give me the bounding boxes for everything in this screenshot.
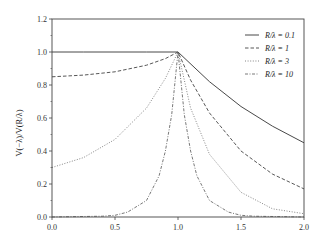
x-tick-label: 0.0 (47, 223, 57, 232)
legend-label-2: R/λ = 1 (264, 44, 289, 53)
x-tick-label: 1.5 (236, 223, 246, 232)
legend: R/λ = 0.1R/λ = 1R/λ = 3R/λ = 10 (245, 31, 295, 79)
chart: 0.00.20.40.60.81.01.20.00.51.01.52.0 R/λ… (0, 0, 325, 245)
x-tick-label: 2.0 (299, 223, 309, 232)
y-tick-label: 0.6 (37, 114, 47, 123)
y-tick-label: 0.8 (37, 81, 47, 90)
y-axis-label: V(−λ)/V(R/λ) (14, 109, 24, 156)
legend-label-3: R/λ = 3 (264, 57, 289, 66)
y-tick-label: 1.0 (37, 48, 47, 57)
y-tick-label: 1.2 (37, 15, 47, 24)
y-tick-label: 0.2 (37, 180, 47, 189)
x-tick-label: 0.5 (110, 223, 120, 232)
y-tick-label: 0.0 (37, 213, 47, 222)
y-tick-label: 0.4 (37, 147, 47, 156)
x-tick-label: 1.0 (173, 223, 183, 232)
legend-label-4: R/λ = 10 (264, 70, 293, 79)
legend-label-1: R/λ = 0.1 (264, 31, 295, 40)
